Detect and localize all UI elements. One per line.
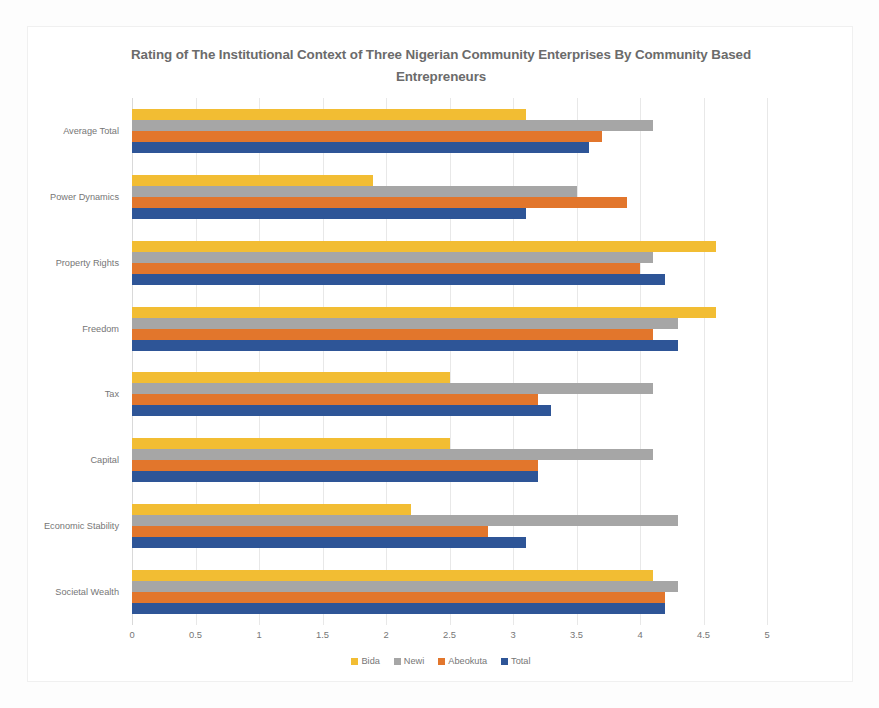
- legend-label: Total: [511, 656, 530, 666]
- bar: [132, 592, 665, 603]
- x-axis-tick-label: 2.5: [443, 629, 456, 640]
- x-axis-tick-label: 1: [256, 629, 261, 640]
- y-axis-labels: Average TotalPower DynamicsProperty Righ…: [28, 98, 126, 625]
- chart-container: Rating of The Institutional Context of T…: [27, 26, 853, 682]
- bar-group: [132, 98, 767, 164]
- bar: [132, 208, 526, 219]
- plot-area: [132, 98, 767, 625]
- bar: [132, 460, 538, 471]
- bar: [132, 318, 678, 329]
- bar: [132, 471, 538, 482]
- legend-swatch-icon: [438, 658, 445, 665]
- y-axis-tick-label: Societal Wealth: [28, 559, 126, 625]
- bar-group: [132, 493, 767, 559]
- bar: [132, 263, 640, 274]
- y-axis-tick-label: Power Dynamics: [28, 164, 126, 230]
- bar: [132, 109, 526, 120]
- bar: [132, 131, 602, 142]
- x-axis-tick-label: 4.5: [697, 629, 710, 640]
- y-axis-tick-label: Freedom: [28, 296, 126, 362]
- legend-item[interactable]: Total: [501, 656, 530, 666]
- bar: [132, 372, 450, 383]
- x-axis-tick-label: 0.5: [189, 629, 202, 640]
- x-axis-tick-label: 5: [764, 629, 769, 640]
- legend-item[interactable]: Abeokuta: [438, 656, 487, 666]
- bar: [132, 142, 589, 153]
- bar-group: [132, 230, 767, 296]
- legend-label: Newi: [404, 656, 424, 666]
- bar: [132, 394, 538, 405]
- gridline: [767, 98, 768, 625]
- chart-legend: BidaNewiAbeokutaTotal: [28, 656, 854, 666]
- legend-item[interactable]: Newi: [394, 656, 424, 666]
- bar: [132, 438, 450, 449]
- bar: [132, 175, 373, 186]
- y-axis-tick-label: Economic Stability: [28, 493, 126, 559]
- bar: [132, 603, 665, 614]
- legend-label: Bida: [361, 656, 379, 666]
- x-axis-tick-label: 1.5: [316, 629, 329, 640]
- bar-groups: [132, 98, 767, 625]
- legend-swatch-icon: [394, 658, 401, 665]
- legend-swatch-icon: [351, 658, 358, 665]
- bar: [132, 570, 653, 581]
- x-axis-labels: 00.511.522.533.544.55: [132, 629, 767, 647]
- y-axis-tick-label: Capital: [28, 427, 126, 493]
- x-axis-tick-label: 4: [637, 629, 642, 640]
- legend-item[interactable]: Bida: [351, 656, 379, 666]
- bar: [132, 307, 716, 318]
- legend-label: Abeokuta: [448, 656, 487, 666]
- y-axis-tick-label: Tax: [28, 362, 126, 428]
- bar-group: [132, 427, 767, 493]
- legend-swatch-icon: [501, 658, 508, 665]
- bar-group: [132, 164, 767, 230]
- bar: [132, 252, 653, 263]
- bar: [132, 449, 653, 460]
- bar: [132, 383, 653, 394]
- bar: [132, 504, 411, 515]
- x-axis-tick-label: 2: [383, 629, 388, 640]
- bar: [132, 120, 653, 131]
- plot-area-wrapper: Average TotalPower DynamicsProperty Righ…: [28, 27, 854, 683]
- bar: [132, 186, 577, 197]
- bar-group: [132, 559, 767, 625]
- bar: [132, 581, 678, 592]
- bar: [132, 329, 653, 340]
- bar-group: [132, 296, 767, 362]
- bar: [132, 274, 665, 285]
- x-axis-tick-label: 3: [510, 629, 515, 640]
- page-background: Rating of The Institutional Context of T…: [0, 0, 879, 708]
- x-axis-tick-label: 0: [129, 629, 134, 640]
- x-axis-tick-label: 3.5: [570, 629, 583, 640]
- bar: [132, 340, 678, 351]
- bar: [132, 197, 627, 208]
- bar: [132, 537, 526, 548]
- y-axis-tick-label: Average Total: [28, 98, 126, 164]
- bar: [132, 515, 678, 526]
- bar: [132, 241, 716, 252]
- bar-group: [132, 362, 767, 428]
- y-axis-tick-label: Property Rights: [28, 230, 126, 296]
- bar: [132, 526, 488, 537]
- bar: [132, 405, 551, 416]
